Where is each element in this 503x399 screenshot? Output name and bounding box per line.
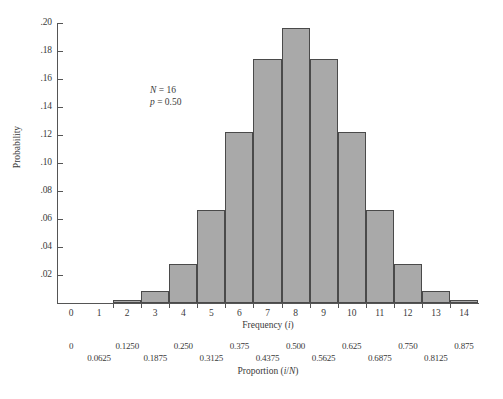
y-axis-tick-label: .08 xyxy=(28,186,52,196)
histogram-bar xyxy=(225,132,253,303)
x-axis-tick xyxy=(282,303,283,308)
x-axis-tick-label: 10 xyxy=(340,308,364,319)
histogram-bar xyxy=(366,210,394,303)
x-axis-tick-label: 4 xyxy=(171,308,195,319)
histogram-bar xyxy=(169,264,197,303)
proportion-tick-label: 0.625 xyxy=(322,341,382,351)
y-axis-tick-label: .06 xyxy=(28,214,52,224)
x-axis-tick xyxy=(141,303,142,308)
x-axis-line xyxy=(57,303,479,304)
x-axis-tick-label: 8 xyxy=(284,308,308,319)
proportion-axis-title: Proportion (i/N) xyxy=(57,366,479,377)
x-axis-tick xyxy=(394,303,395,308)
histogram-bar xyxy=(310,59,338,303)
x-axis-tick-label: 1 xyxy=(87,308,111,319)
x-axis-title: Frequency (i) xyxy=(57,320,479,331)
plot-area xyxy=(57,23,478,303)
histogram-bar xyxy=(450,300,478,303)
histogram-bar xyxy=(338,132,366,303)
proportion-tick-label: 0.3125 xyxy=(181,353,241,363)
histogram-bar xyxy=(141,291,169,303)
x-axis-tick xyxy=(113,303,114,308)
x-axis-tick-label: 6 xyxy=(227,308,251,319)
x-axis-tick xyxy=(422,303,423,308)
proportion-tick-label: 0.750 xyxy=(378,341,438,351)
x-axis-tick xyxy=(450,303,451,308)
x-axis-tick xyxy=(310,303,311,308)
x-axis-tick xyxy=(169,303,170,308)
x-axis-tick-label: 12 xyxy=(396,308,420,319)
binomial-histogram-figure: Probability .20.18.16.14.12.10.08.06.04.… xyxy=(0,0,503,399)
proportion-symbol-n: N xyxy=(289,366,295,376)
x-axis-tick-label: 0 xyxy=(59,308,83,319)
x-axis-tick xyxy=(253,303,254,308)
y-axis-tick-label: .14 xyxy=(28,102,52,112)
y-axis-tick-label: .10 xyxy=(28,158,52,168)
proportion-symbol-i: i xyxy=(284,366,287,376)
proportion-tick-label: 0.250 xyxy=(153,341,213,351)
annotation-line: N = 16 xyxy=(150,84,181,96)
x-axis-tick-label: 13 xyxy=(424,308,448,319)
x-axis-tick-label: 3 xyxy=(143,308,167,319)
histogram-bar xyxy=(113,300,141,303)
y-axis-tick-label: .12 xyxy=(28,130,52,140)
histogram-bar xyxy=(394,264,422,303)
x-axis-tick xyxy=(338,303,339,308)
x-axis-tick-label: 14 xyxy=(452,308,476,319)
proportion-tick-label: 0.8125 xyxy=(406,353,466,363)
proportion-tick-label: 0.1875 xyxy=(125,353,185,363)
proportion-tick-label: 0.5625 xyxy=(294,353,354,363)
proportion-tick-label: 0.500 xyxy=(266,341,326,351)
y-axis-tick-label: .18 xyxy=(28,46,52,56)
x-axis-tick-label: 11 xyxy=(368,308,392,319)
proportion-tick-label: 0.375 xyxy=(209,341,269,351)
parameter-annotation: N = 16p = 0.50 xyxy=(150,84,181,108)
y-axis-title: Probability xyxy=(12,97,22,197)
proportion-tick-label: 0.0625 xyxy=(69,353,129,363)
x-axis-tick-label: 7 xyxy=(256,308,280,319)
annotation-line: p = 0.50 xyxy=(150,96,181,108)
x-axis-tick-label: 5 xyxy=(199,308,223,319)
y-axis-tick-label: .04 xyxy=(28,242,52,252)
proportion-tick-label: 0.1250 xyxy=(97,341,157,351)
histogram-bar xyxy=(253,59,281,303)
x-axis-title-symbol: i xyxy=(288,320,291,330)
x-axis-tick xyxy=(197,303,198,308)
x-axis-tick xyxy=(366,303,367,308)
proportion-tick-label: 0.4375 xyxy=(238,353,298,363)
proportion-tick-label: 0.875 xyxy=(434,341,494,351)
histogram-bar xyxy=(422,291,450,303)
x-axis-tick-label: 9 xyxy=(312,308,336,319)
y-axis-tick-label: .16 xyxy=(28,74,52,84)
x-axis-tick-label: 2 xyxy=(115,308,139,319)
histogram-bar xyxy=(282,28,310,303)
x-axis-tick xyxy=(225,303,226,308)
y-axis-tick-label: .02 xyxy=(28,270,52,280)
proportion-tick-label: 0.6875 xyxy=(350,353,410,363)
histogram-bar xyxy=(197,210,225,303)
y-axis-tick-label: .20 xyxy=(28,18,52,28)
proportion-tick-label: 0 xyxy=(41,341,101,351)
